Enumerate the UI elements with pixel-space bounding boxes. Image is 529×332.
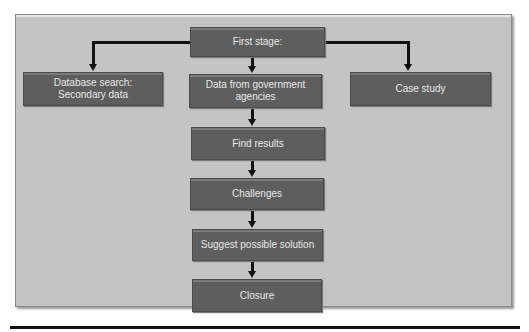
connector-right-horizontal [325,41,409,44]
arrow-to-find [248,119,256,126]
node-challenges: Challenges [190,178,324,210]
connector-right-vertical [407,41,410,65]
node-first-stage: First stage: [190,27,325,57]
arrow-to-case-study [404,64,412,71]
node-suggest-solution: Suggest possible solution [192,229,323,261]
node-database-search: Database search: Secondary data [23,72,163,106]
arrow-to-closure [248,271,256,278]
arrow-to-challenges [248,170,256,177]
node-find-results: Find results [191,127,325,160]
arrow-to-database [89,64,97,71]
arrow-to-gov [248,66,256,73]
bottom-rule [10,326,520,329]
node-government-data: Data from government agencies [189,74,322,108]
connector-left-vertical [92,41,95,65]
diagram-frame [15,14,512,307]
connector-left-horizontal [92,41,190,44]
arrow-to-suggest [248,221,256,228]
node-case-study: Case study [350,72,491,106]
node-closure: Closure [192,279,322,312]
